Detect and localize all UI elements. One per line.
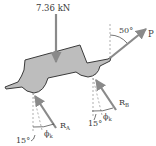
- friction-angle-a-label: ϕk: [44, 129, 53, 139]
- reaction-a: RA ϕk 15°: [16, 93, 71, 145]
- incline-angle-a-label: 15°: [16, 136, 30, 145]
- friction-angle-b-label: ϕk: [103, 112, 112, 122]
- free-body-diagram: 7.36 kN 50° P RA ϕk 15° RB ϕk 15°: [0, 0, 156, 146]
- incline-angle-b-label: 15°: [88, 119, 102, 128]
- pull-angle-label: 50°: [119, 26, 133, 35]
- pull-force: 50° P: [110, 24, 154, 58]
- reaction-b: RB ϕk 15°: [88, 78, 129, 128]
- weight-label: 7.36 kN: [36, 3, 71, 13]
- friction-angle-arc-b: [92, 108, 113, 111]
- reaction-a-label: RA: [60, 121, 71, 131]
- friction-angle-arc-a: [33, 124, 54, 127]
- angle-arc: [110, 35, 127, 43]
- reaction-b-label: RB: [119, 98, 129, 108]
- pull-label: P: [148, 29, 154, 39]
